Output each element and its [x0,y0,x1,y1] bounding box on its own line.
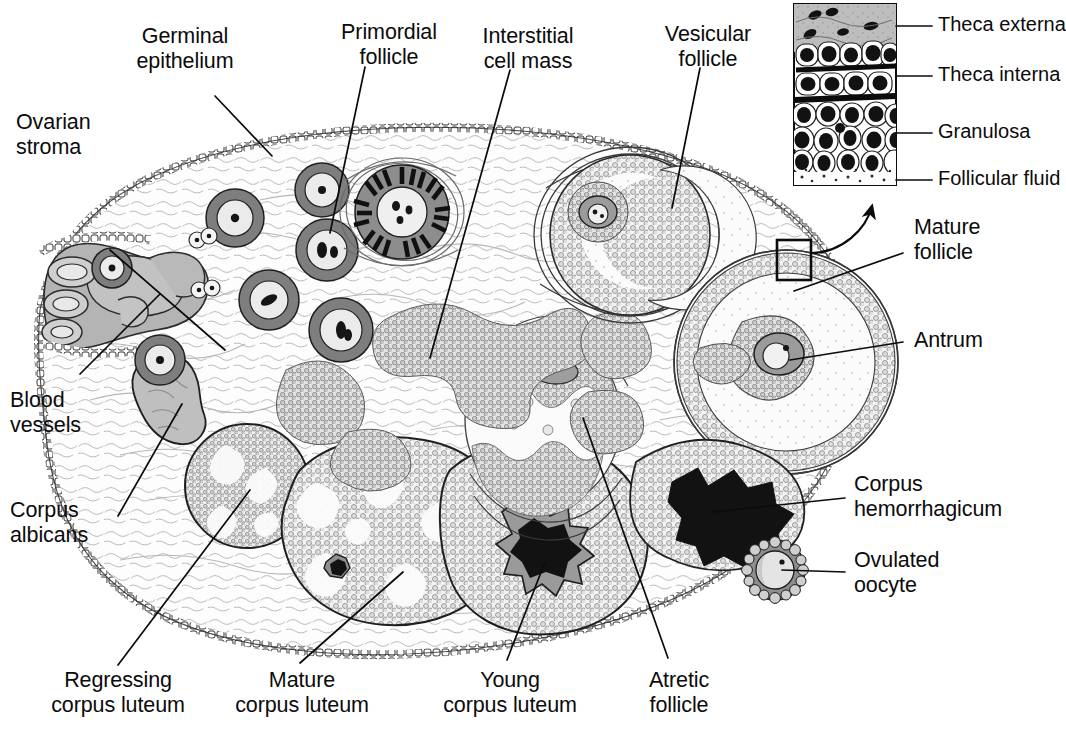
label-blood-vessels: Blood vessels [10,388,160,438]
label-theca-externa: Theca externa [938,13,1066,36]
label-atretic-follicle: Atretic follicle [610,668,748,718]
label-interstitial-cell-mass: Interstitial cell mass [438,24,618,74]
label-theca-interna: Theca interna [938,63,1060,86]
label-mature-corpus-luteum: Mature corpus luteum [196,668,408,718]
label-regressing-corpus-luteum: Regressing corpus luteum [12,668,224,718]
label-antrum: Antrum [914,328,1050,353]
label-ovarian-stroma: Ovarian stroma [16,110,196,160]
label-corpus-albicans: Corpus albicans [10,498,160,548]
label-ovulated-oocyte: Ovulated oocyte [854,548,1020,598]
label-young-corpus-luteum: Young corpus luteum [404,668,616,718]
granulosa-cells [790,102,907,175]
label-mature-follicle: Mature follicle [914,215,1050,265]
label-corpus-hemorrhagicum: Corpus hemorrhagicum [854,472,1052,522]
inset-panel [790,4,907,253]
label-vesicular-follicle: Vesicular follicle [632,22,784,72]
label-granulosa: Granulosa [938,120,1030,143]
label-follicular-fluid: Follicular fluid [938,167,1060,190]
label-germinal-epithelium: Germinal epithelium [92,24,278,74]
